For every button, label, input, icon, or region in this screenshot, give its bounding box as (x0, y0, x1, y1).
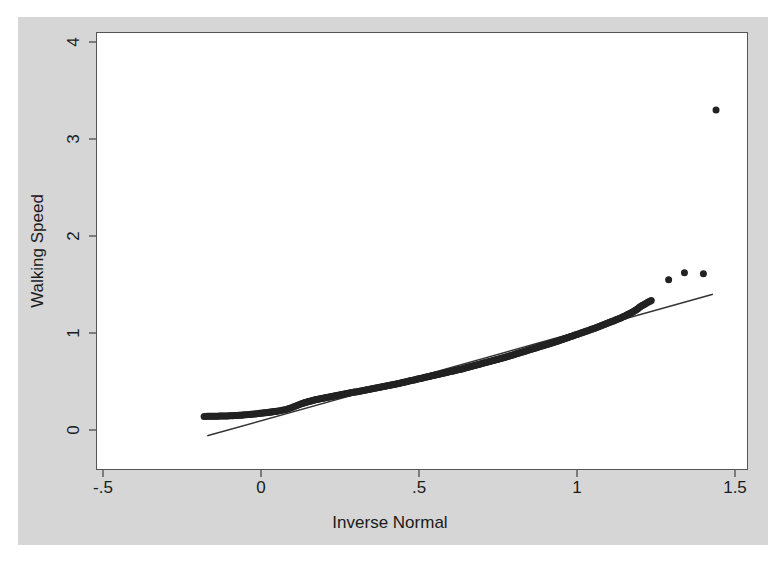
x-tick-label-0: -.5 (93, 478, 113, 498)
x-tick-label-1: 0 (256, 478, 265, 498)
x-tick-label-4: 1.5 (723, 478, 747, 498)
y-tick-label-3: 3 (64, 134, 84, 143)
y-tick-label-1: 1 (64, 328, 84, 337)
y-tick-label-4: 4 (64, 37, 84, 46)
x-tick-label-2: .5 (412, 478, 426, 498)
x-axis-title: Inverse Normal (0, 513, 780, 533)
y-tick-label-0: 0 (64, 425, 84, 434)
y-axis-title: Walking Speed (28, 194, 48, 308)
plot-panel (96, 32, 748, 470)
qq-plot-figure: -.5 0 .5 1 1.5 0 1 2 3 4 Inverse Normal … (0, 0, 780, 568)
x-tick-label-3: 1 (572, 478, 581, 498)
y-tick-label-2: 2 (64, 231, 84, 240)
